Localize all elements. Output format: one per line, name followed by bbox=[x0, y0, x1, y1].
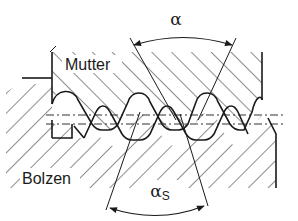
diagram-canvas: α αS Mutter Bolzen bbox=[0, 0, 298, 221]
angle-alpha-label: α bbox=[170, 9, 182, 29]
nut-label: Mutter bbox=[65, 56, 111, 73]
bolt-label: Bolzen bbox=[22, 170, 71, 187]
thread-diagram: α αS Mutter Bolzen bbox=[0, 0, 298, 221]
